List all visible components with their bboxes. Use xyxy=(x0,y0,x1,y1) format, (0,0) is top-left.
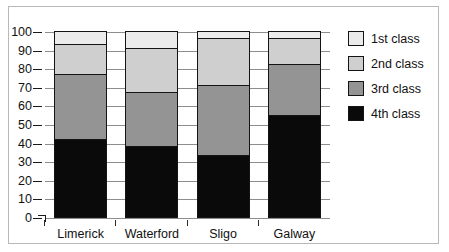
gridline xyxy=(45,218,330,219)
y-axis-tick-label: 90 xyxy=(4,45,32,58)
bar-sligo[interactable] xyxy=(197,32,250,218)
y-axis-tick xyxy=(33,181,42,182)
bar-segment-2nd-class[interactable] xyxy=(268,38,321,64)
x-axis-tick xyxy=(258,220,259,226)
legend-swatch xyxy=(348,81,364,96)
y-axis-tick-label: 30 xyxy=(4,156,32,169)
x-axis-tick xyxy=(44,220,45,226)
y-axis-tick xyxy=(33,88,42,89)
y-axis-labels: 0102030405060708090100 xyxy=(4,32,32,218)
x-axis-label-galway: Galway xyxy=(249,228,339,241)
y-axis-tick-label: 80 xyxy=(4,63,32,76)
plot-area xyxy=(45,32,330,218)
y-axis-tick xyxy=(33,106,42,107)
legend-label: 2nd class xyxy=(371,57,424,71)
legend-item-1st-class[interactable]: 1st class xyxy=(348,26,434,51)
legend-label: 1st class xyxy=(371,32,420,46)
bar-segment-3rd-class[interactable] xyxy=(197,85,250,156)
chart-figure: 0102030405060708090100 1st class2nd clas… xyxy=(0,0,449,252)
bar-segment-1st-class[interactable] xyxy=(125,31,178,49)
y-axis-tick-label: 10 xyxy=(4,193,32,206)
bar-segment-4th-class[interactable] xyxy=(125,146,178,218)
bar-galway[interactable] xyxy=(268,32,321,218)
y-axis-tick-label: 70 xyxy=(4,82,32,95)
legend-item-2nd-class[interactable]: 2nd class xyxy=(348,51,434,76)
y-axis-tick xyxy=(33,162,42,163)
y-axis-tick xyxy=(33,32,42,33)
bar-waterford[interactable] xyxy=(125,32,178,218)
y-axis-tick-label: 100 xyxy=(4,26,32,39)
legend-swatch xyxy=(348,106,364,121)
y-axis-tick xyxy=(33,69,42,70)
y-axis-tick xyxy=(33,199,42,200)
bar-segment-4th-class[interactable] xyxy=(197,155,250,218)
legend-item-4th-class[interactable]: 4th class xyxy=(348,101,434,126)
bar-segment-4th-class[interactable] xyxy=(268,115,321,218)
bar-segment-1st-class[interactable] xyxy=(268,31,321,39)
chart-legend: 1st class2nd class3rd class4th class xyxy=(348,26,434,126)
bar-segment-2nd-class[interactable] xyxy=(54,44,107,75)
bar-segment-3rd-class[interactable] xyxy=(125,92,178,147)
y-axis-tick-label: 0 xyxy=(4,212,32,225)
y-axis-tick-label: 20 xyxy=(4,175,32,188)
legend-swatch xyxy=(348,56,364,71)
bar-segment-3rd-class[interactable] xyxy=(268,64,321,116)
legend-swatch xyxy=(348,31,364,46)
y-axis-tick-label: 60 xyxy=(4,100,32,113)
y-axis-tick-label: 50 xyxy=(4,119,32,132)
y-axis-tick-label: 40 xyxy=(4,138,32,151)
y-axis-tick xyxy=(33,125,42,126)
x-axis-tick xyxy=(187,220,188,226)
bar-segment-1st-class[interactable] xyxy=(54,31,107,45)
bar-segment-1st-class[interactable] xyxy=(197,31,250,39)
bar-segment-2nd-class[interactable] xyxy=(125,48,178,94)
bar-segment-4th-class[interactable] xyxy=(54,139,107,218)
legend-label: 3rd class xyxy=(371,82,421,96)
x-axis-tick xyxy=(115,220,116,226)
bar-segment-3rd-class[interactable] xyxy=(54,74,107,140)
legend-label: 4th class xyxy=(371,107,420,121)
bar-segment-2nd-class[interactable] xyxy=(197,38,250,86)
bar-limerick[interactable] xyxy=(54,32,107,218)
y-axis-tick xyxy=(33,144,42,145)
y-axis-tick xyxy=(33,51,42,52)
legend-item-3rd-class[interactable]: 3rd class xyxy=(348,76,434,101)
